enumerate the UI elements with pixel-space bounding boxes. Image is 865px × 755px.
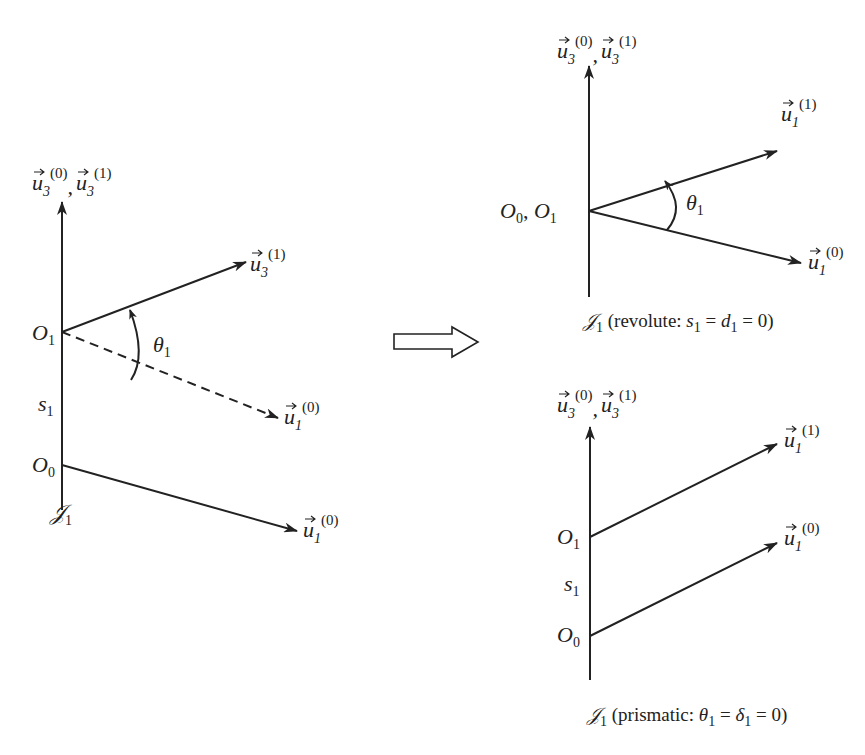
left-panel: u3(0),u3(1) u3(1) u1(0) u1(0) θ1 O1 s1 O… (32, 165, 339, 546)
label-theta1: θ1 (153, 332, 171, 360)
kinematic-joint-diagram: u3(0),u3(1) u3(1) u1(0) u1(0) θ1 O1 s1 O… (0, 0, 865, 755)
label-u3-1: u3(1) (250, 246, 286, 280)
label-s1: s1 (38, 391, 54, 419)
label-theta1: θ1 (686, 190, 704, 218)
u1-1-vector (590, 444, 777, 537)
prismatic-axis-label: u3(0),u3(1) (557, 387, 637, 421)
u3-1-vector (62, 262, 246, 332)
u1-0-vector (590, 543, 777, 636)
u1-0-base-vector (62, 465, 297, 531)
label-O0: O0 (557, 622, 580, 650)
label-u1-1: u1(1) (781, 96, 817, 130)
label-u1-0: u1(0) (784, 520, 820, 554)
prismatic-caption: 𝒥1 (prismatic: θ1 = δ1 = 0) (586, 704, 787, 729)
theta-angle-arc (130, 310, 139, 380)
theta-angle-arc (665, 181, 676, 230)
label-O0-O1: O0, O1 (500, 198, 557, 226)
u1-1-vector (589, 151, 777, 211)
hollow-right-arrow-icon (394, 327, 478, 357)
label-u1-0: u1(0) (808, 244, 844, 278)
revolute-panel: u3(0),u3(1) u1(1) u1(0) θ1 O0, O1 𝒥1 (re… (500, 33, 844, 335)
label-u1-1: u1(1) (784, 422, 820, 456)
label-u1-0-base: u1(0) (303, 512, 339, 546)
label-s1: s1 (564, 571, 580, 599)
revolute-caption: 𝒥1 (revolute: s1 = d1 = 0) (582, 310, 774, 335)
label-O0: O0 (32, 452, 55, 480)
u1-0-vector (589, 211, 801, 263)
svg-text:u3(0),u3(1): u3(0),u3(1) (32, 165, 112, 199)
prismatic-panel: u3(0),u3(1) u1(1) u1(0) O1 s1 O0 𝒥1 (pri… (557, 387, 820, 729)
label-joint-J1: 𝒥1 (49, 500, 73, 528)
label-O1: O1 (557, 524, 580, 552)
left-axis-label: u3(0),u3(1) (32, 165, 112, 199)
revolute-axis-label: u3(0),u3(1) (557, 33, 637, 67)
label-O1: O1 (32, 320, 55, 348)
label-u1-0-dashed: u1(0) (284, 399, 320, 433)
